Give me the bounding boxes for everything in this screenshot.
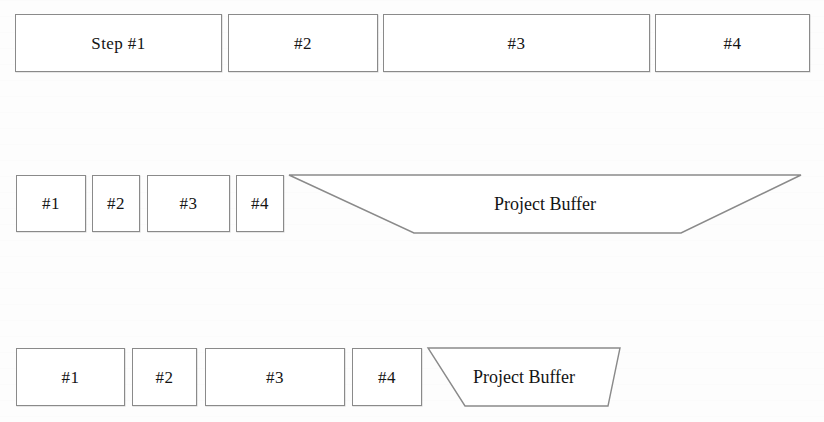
step-box[interactable]: #3 [205, 348, 345, 406]
row-reduced-buffer: #1#2#3#4Project Buffer [0, 0, 824, 422]
step-box-label: #2 [156, 369, 174, 386]
project-buffer-shape[interactable]: Project Buffer [428, 348, 620, 406]
diagram-canvas: Step #1#2#3#4#1#2#3#4Project Buffer#1#2#… [0, 0, 824, 422]
step-box-label: #4 [378, 369, 396, 386]
step-box-label: #3 [266, 369, 284, 386]
step-box[interactable]: #1 [16, 348, 125, 406]
step-box[interactable]: #2 [132, 348, 197, 406]
step-box-label: #1 [62, 369, 80, 386]
project-buffer-label: Project Buffer [473, 368, 575, 386]
step-box[interactable]: #4 [352, 348, 422, 406]
